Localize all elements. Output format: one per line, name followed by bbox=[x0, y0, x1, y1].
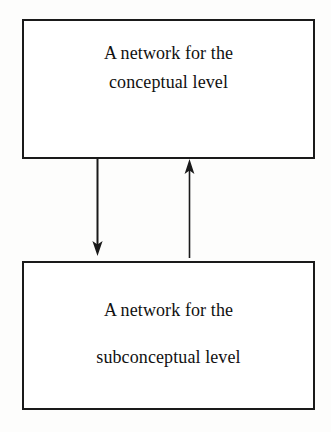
node-conceptual-network[interactable]: A network for the conceptual level bbox=[22, 19, 315, 159]
node-subconceptual-label: A network for the subconceptual level bbox=[24, 287, 313, 381]
arrow-up-icon bbox=[172, 155, 208, 259]
node-conceptual-label-line2: conceptual level bbox=[24, 68, 313, 97]
arrow-subconceptual-to-conceptual bbox=[172, 155, 208, 259]
node-conceptual-label: A network for the conceptual level bbox=[24, 39, 313, 97]
node-subconceptual-label-line2: subconceptual level bbox=[24, 334, 313, 381]
node-conceptual-label-line1: A network for the bbox=[24, 39, 313, 68]
node-subconceptual-network[interactable]: A network for the subconceptual level bbox=[22, 261, 315, 410]
node-subconceptual-label-line1: A network for the bbox=[24, 287, 313, 334]
arrow-conceptual-to-subconceptual bbox=[80, 155, 116, 259]
arrow-down-icon bbox=[80, 155, 116, 259]
diagram-canvas: A network for the conceptual level A net… bbox=[0, 0, 331, 432]
